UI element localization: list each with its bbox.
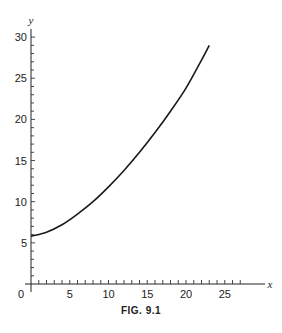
axes [25, 29, 265, 292]
y-tick-label: 30 [15, 31, 27, 43]
figure-caption: FIG. 9.1 [0, 305, 282, 316]
x-tick-label: 5 [67, 288, 73, 300]
y-axis-label: y [28, 14, 34, 26]
y-tick-label: 15 [15, 155, 27, 167]
x-axis-label: x [267, 278, 273, 290]
data-curve [31, 45, 209, 236]
x-tick-label: 10 [102, 288, 114, 300]
x-tick-label: 0 [18, 288, 24, 300]
y-tick-label: 5 [21, 237, 27, 249]
x-tick-label: 20 [180, 288, 192, 300]
y-tick-label: 20 [15, 113, 27, 125]
chart: 051015202551015202530xy [0, 0, 282, 333]
x-tick-label: 15 [141, 288, 153, 300]
y-tick-label: 10 [15, 196, 27, 208]
axis-ticks [31, 37, 240, 284]
y-tick-label: 25 [15, 72, 27, 84]
x-tick-label: 25 [219, 288, 231, 300]
tick-labels: 051015202551015202530xy [15, 14, 273, 300]
